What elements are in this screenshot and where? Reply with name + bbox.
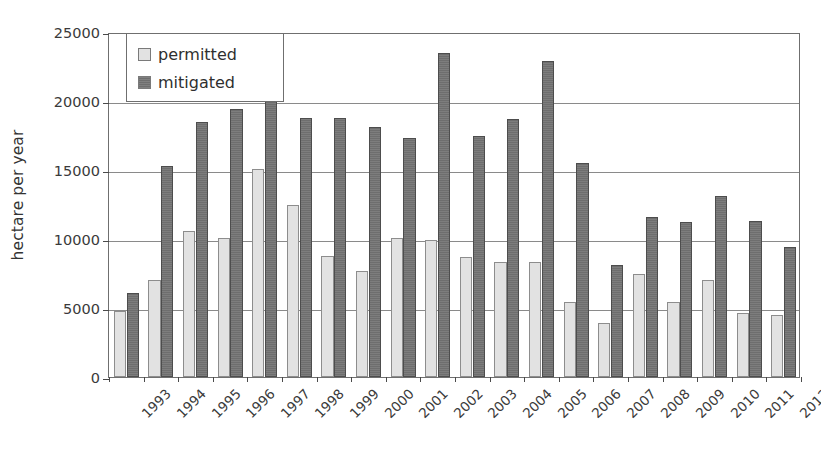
y-axis-tick-labels: 0500010000150002000025000 [36,0,106,390]
x-axis-tick-label: 2005 [554,386,590,422]
bar-permitted-2009 [667,302,679,377]
bar-permitted-1995 [183,231,195,377]
x-axis-tick-label: 1996 [243,386,279,422]
bar-permitted-2003 [460,257,472,377]
y-axis-tick-label: 10000 [54,232,100,248]
bar-group [732,34,767,377]
bar-mitigated-1997 [265,80,277,377]
x-axis-tick-label: 1998 [312,386,348,422]
bar-group [524,34,559,377]
legend-item-mitigated: mitigated [138,68,283,96]
bar-group [697,34,732,377]
x-axis-tick-label: 2003 [485,386,521,422]
bar-group [386,34,421,377]
y-axis-tick-label: 0 [91,370,100,386]
x-axis-tick-label: 2012 [796,386,821,422]
legend-label-permitted: permitted [158,45,237,64]
bar-permitted-2000 [356,271,368,377]
x-axis-tick-label: 2002 [450,386,486,422]
bar-group [420,34,455,377]
bar-group [766,34,801,377]
legend-label-mitigated: mitigated [158,73,235,92]
x-axis-tick-label: 2007 [623,386,659,422]
legend-item-permitted: permitted [138,40,283,68]
bar-mitigated-2006 [576,163,588,377]
bar-mitigated-1993 [127,293,139,377]
x-axis-tick-label: 2011 [762,386,798,422]
bar-mitigated-2012 [784,247,796,377]
bar-group [351,34,386,377]
y-axis-title: hectare per year [0,0,36,390]
y-axis-tick-label: 20000 [54,94,100,110]
bar-group [317,34,352,377]
bar-permitted-2001 [391,238,403,377]
bar-permitted-2012 [771,315,783,377]
bar-mitigated-2010 [715,196,727,377]
bar-permitted-2002 [425,240,437,377]
bar-mitigated-2000 [369,127,381,377]
bar-permitted-2010 [702,280,714,377]
bar-group [628,34,663,377]
y-axis-tick-label: 5000 [63,301,100,317]
x-axis-tick-label: 2010 [727,386,763,422]
bar-permitted-2007 [598,323,610,378]
bar-group [593,34,628,377]
bar-permitted-1996 [218,238,230,377]
bar-mitigated-1998 [300,118,312,377]
plot-area: permitted mitigated [108,33,800,378]
x-axis-tick-label: 2001 [416,386,452,422]
bar-group [490,34,525,377]
bar-mitigated-2003 [473,136,485,378]
bar-permitted-2005 [529,262,541,377]
y-axis-title-text: hectare per year [9,130,27,261]
y-axis-tick-label: 25000 [54,25,100,41]
bar-group [663,34,698,377]
x-axis-tick-label: 1995 [208,386,244,422]
bar-mitigated-2007 [611,265,623,377]
bar-permitted-2006 [564,302,576,377]
bar-permitted-1998 [287,205,299,378]
bar-group [282,34,317,377]
bar-permitted-2011 [737,313,749,377]
bar-mitigated-2009 [680,222,692,377]
bar-mitigated-1999 [334,118,346,377]
bar-permitted-1999 [321,256,333,377]
bar-permitted-1994 [148,280,160,377]
bar-mitigated-1995 [196,122,208,377]
bar-permitted-1997 [252,169,264,377]
bar-mitigated-2008 [646,217,658,377]
x-axis-tick-label: 2009 [692,386,728,422]
x-axis-tick-label: 1994 [173,386,209,422]
x-axis-tick-label: 2004 [519,386,555,422]
x-axis-tick-label: 1999 [346,386,382,422]
x-axis-tick-label: 2000 [381,386,417,422]
bar-mitigated-2002 [438,53,450,377]
chart-legend: permitted mitigated [126,33,284,102]
bar-mitigated-2001 [403,138,415,377]
legend-swatch-mitigated-icon [138,76,151,89]
bar-group [455,34,490,377]
legend-swatch-permitted-icon [138,48,151,61]
x-axis-tick-label: 2006 [589,386,625,422]
x-axis-tick-labels: 1993199419951996199719981999200020012002… [108,382,800,450]
y-axis-tick-label: 15000 [54,163,100,179]
bar-mitigated-1996 [230,109,242,377]
bar-mitigated-2004 [507,119,519,377]
bar-chart: hectare per year 05000100001500020000250… [0,0,821,450]
bar-mitigated-1994 [161,166,173,377]
bar-group [559,34,594,377]
x-axis-tick-label: 1993 [139,386,175,422]
x-axis-tick-label: 1997 [277,386,313,422]
bar-mitigated-2011 [749,221,761,377]
x-axis-tick-label: 2008 [658,386,694,422]
x-axis-tick [801,377,802,382]
bar-permitted-2004 [494,262,506,377]
bar-mitigated-2005 [542,61,554,377]
bar-permitted-1993 [114,311,126,377]
bar-permitted-2008 [633,274,645,378]
